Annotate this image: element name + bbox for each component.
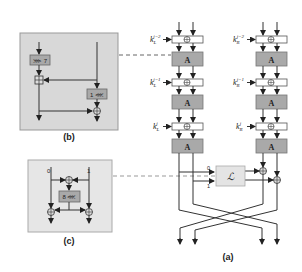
a-block-label: A: [185, 143, 191, 152]
l-input-1-label: 1: [207, 183, 210, 189]
left-branch: A A A: [163, 22, 214, 210]
key-label-left-2: kLj: [153, 121, 160, 132]
branch-swap: [179, 204, 277, 240]
panel-c-label: (c): [64, 236, 75, 246]
key-label-left-0: kLj−2: [150, 34, 161, 45]
key-label-left-1: kLj−1: [150, 77, 161, 88]
l-input-0-label: 0: [207, 165, 210, 171]
a-block-label: A: [185, 56, 191, 65]
a-block-label: A: [269, 56, 275, 65]
a-block-label: A: [269, 143, 275, 152]
rotate-left-1-label: 1 ⋘: [90, 92, 104, 98]
right-key-labels: kRj−2 kRj−1 kRj: [233, 34, 244, 132]
left-key-labels: kLj−2 kLj−1 kLj: [150, 34, 161, 132]
key-label-right-0: kRj−2: [233, 34, 244, 45]
right-branch: A A A: [245, 22, 287, 210]
panel-b-label: (b): [63, 132, 75, 142]
rotate-left-8-label: 8 ⋘: [62, 194, 76, 200]
key-label-right-2: kRj: [236, 121, 243, 132]
panel-c: 0 1 8 ⋘: [28, 160, 112, 232]
a-block-label: A: [269, 99, 275, 108]
panel-a-label: (a): [223, 252, 234, 262]
key-label-right-1: kRj−1: [233, 77, 244, 88]
a-block-label: A: [185, 99, 191, 108]
panel-b: ⋙ 7 1 ⋘: [20, 33, 118, 130]
rotate-right-7-label: ⋙ 7: [33, 58, 48, 64]
diagram-canvas: ⋙ 7 1 ⋘ (b) 0 1 8 ⋘: [0, 0, 302, 272]
l-block-label: ℒ: [227, 171, 235, 182]
diagram-root: ⋙ 7 1 ⋘ (b) 0 1 8 ⋘: [0, 0, 302, 272]
